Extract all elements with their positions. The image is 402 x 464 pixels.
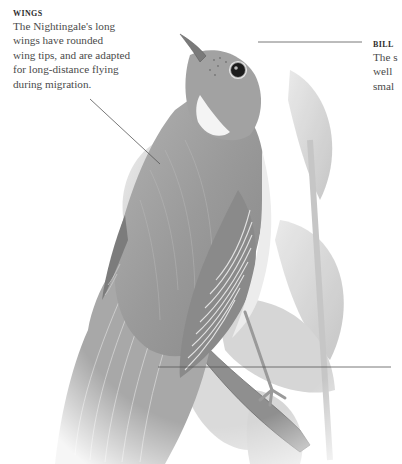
wings-callout-body: The Nightingale's long wings have rounde…: [13, 19, 163, 91]
wings-callout: WINGS The Nightingale's long wings have …: [13, 9, 163, 91]
wings-callout-title: WINGS: [13, 9, 163, 18]
bill-callout-title: BILL: [373, 40, 402, 49]
bill-callout-body: The s well smal: [373, 50, 402, 93]
bill-callout: BILL The s well smal: [373, 40, 402, 93]
